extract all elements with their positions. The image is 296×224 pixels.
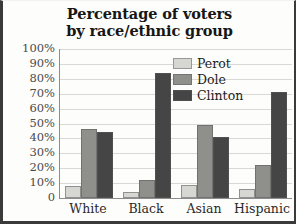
legend-label-clinton: Clinton (197, 89, 243, 102)
y-axis-tick-label: 70% (9, 88, 55, 100)
bar-dole-black[interactable] (139, 180, 155, 198)
bar-perot-asian[interactable] (181, 185, 197, 198)
chart-frame: Percentage of voters by race/ethnic grou… (0, 0, 296, 224)
bar-perot-hispanic[interactable] (239, 189, 255, 198)
chart-title: Percentage of voters by race/ethnic grou… (11, 6, 288, 39)
y-axis-tick-label: 80% (9, 73, 55, 85)
y-axis-tick-label: 10% (9, 177, 55, 189)
legend-item-dole[interactable]: Dole (173, 72, 273, 86)
bar-clinton-hispanic[interactable] (271, 92, 287, 198)
legend-swatch-clinton (173, 90, 192, 101)
legend-item-perot[interactable]: Perot (173, 56, 273, 70)
y-axis-tick-label: 60% (9, 103, 55, 115)
chart-title-line-1: Percentage of voters (11, 6, 288, 23)
bar-dole-asian[interactable] (197, 125, 213, 198)
bar-group (60, 49, 118, 198)
y-axis-tick-labels: 100%90%80%70%60%50%40%30%20%10%0 (7, 49, 55, 198)
x-axis-tick-label-hispanic: Hispanic (233, 202, 291, 216)
bar-group (118, 49, 176, 198)
legend-label-dole: Dole (197, 73, 226, 86)
bar-clinton-white[interactable] (97, 132, 113, 198)
bar-dole-hispanic[interactable] (255, 165, 271, 198)
chart-title-line-2: by race/ethnic group (11, 23, 288, 40)
y-axis-tick-label: 30% (9, 147, 55, 159)
y-axis-tick-label: 100% (9, 43, 55, 55)
y-axis-tick-label: 0 (9, 192, 55, 204)
x-axis-tick-label-white: White (59, 202, 117, 216)
legend-swatch-dole (173, 74, 192, 85)
x-axis-tick-label-asian: Asian (175, 202, 233, 216)
x-axis-tick-label-black: Black (117, 202, 175, 216)
bar-clinton-asian[interactable] (213, 137, 229, 198)
legend-item-clinton[interactable]: Clinton (173, 88, 273, 102)
y-axis-tick-label: 90% (9, 58, 55, 70)
legend-label-perot: Perot (197, 57, 231, 70)
legend-swatch-perot (173, 58, 192, 69)
x-axis-tick-labels: WhiteBlackAsianHispanic (59, 200, 291, 222)
bar-clinton-black[interactable] (155, 73, 171, 198)
y-axis-tick-label: 20% (9, 162, 55, 174)
chart-legend: PerotDoleClinton (173, 56, 273, 104)
bar-perot-white[interactable] (65, 186, 81, 198)
bar-dole-white[interactable] (81, 129, 97, 198)
y-axis-tick-label: 40% (9, 132, 55, 144)
y-axis-tick-label: 50% (9, 118, 55, 130)
bar-perot-black[interactable] (123, 192, 139, 198)
